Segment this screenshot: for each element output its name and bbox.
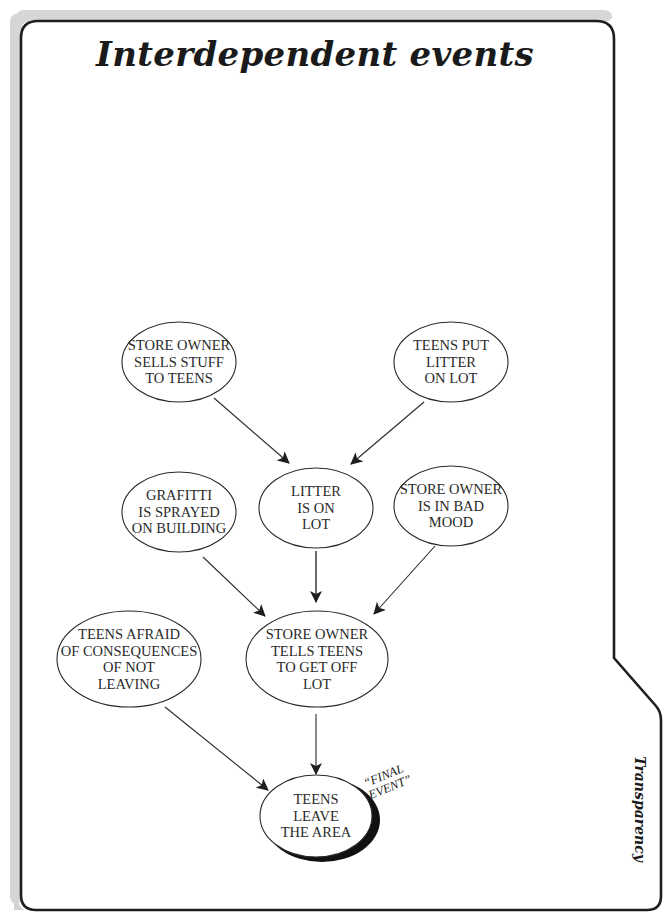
node-grafitti: GRAFITTI IS SPRAYED ON BUILDING [122, 472, 236, 552]
node-teens-leave: TEENS LEAVE THE AREA [260, 775, 372, 857]
node-teens-afraid: TEENS AFRAID OF CONSEQUENCES OF NOT LEAV… [57, 611, 201, 707]
node-store-owner-sells: STORE OWNER SELLS STUFF TO TEENS [122, 322, 236, 402]
node-bad-mood: STORE OWNER IS IN BAD MOOD [394, 466, 508, 546]
node-litter-on-lot: LITTER IS ON LOT [259, 468, 373, 548]
node-tells-teens: STORE OWNER TELLS TEENS TO GET OFF LOT [246, 611, 388, 707]
side-tab-label: Transparency [632, 756, 648, 862]
page-title: Interdependent events [0, 34, 630, 74]
node-teens-put-litter: TEENS PUT LITTER ON LOT [394, 322, 508, 402]
